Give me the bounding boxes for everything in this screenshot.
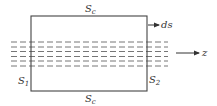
label-left-surface: S1 bbox=[18, 75, 29, 88]
label-ds: ds bbox=[161, 19, 173, 30]
control-volume-diagram: Sc Sc S1 S2 ds z bbox=[0, 0, 217, 106]
label-right-surface: S2 bbox=[149, 74, 161, 87]
label-bottom-surface: Sc bbox=[85, 93, 96, 106]
label-top-surface: Sc bbox=[85, 3, 96, 16]
label-z-axis: z bbox=[201, 47, 208, 58]
control-surface-rect bbox=[31, 16, 147, 91]
field-lines bbox=[11, 42, 168, 66]
